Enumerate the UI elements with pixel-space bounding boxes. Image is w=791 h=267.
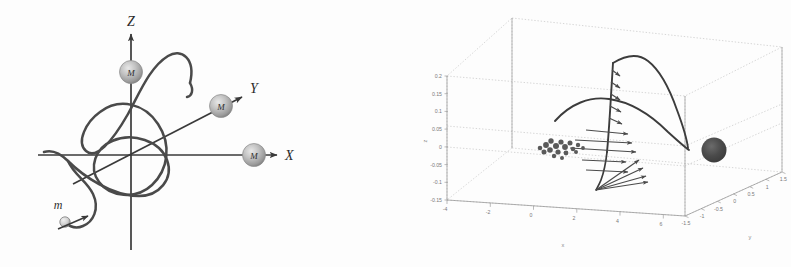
z-tick-label-1: 0.15 (432, 91, 442, 97)
vector-arrow (586, 130, 628, 134)
schematic-svg: M M M m X Y Z (0, 0, 400, 267)
attractor-sphere (702, 138, 727, 163)
y-axis-group: -1.5 -1 -0.5 0 0.5 1 1.5 y (682, 172, 788, 240)
box-grid-midline-b (447, 147, 685, 166)
x-axis-name: x (562, 242, 565, 248)
mass-on-x-axis-label: M (249, 151, 258, 161)
plot-box-wireframe (447, 18, 782, 216)
mass-on-y-axis-label: M (216, 102, 225, 112)
vector-arrow (570, 148, 636, 152)
x-tick-label-5: 6 (660, 221, 663, 227)
mass-on-x-axis: M (243, 144, 266, 167)
vector-arrow (575, 140, 632, 143)
z-tick-label-7: -0.15 (430, 197, 442, 203)
test-particle-label: m (54, 198, 63, 212)
z-tick-label-4: 0 (439, 144, 442, 150)
particle-cluster (538, 138, 585, 160)
vector-arrow (610, 106, 621, 112)
y-tick-label-6: 1.5 (780, 176, 787, 182)
x-axis-group: -4 -2 0 2 4 6 x (443, 200, 685, 248)
orbit-trajectory-curve (44, 53, 192, 227)
x-tick-label-0: -4 (443, 206, 448, 212)
y-axis-label: Y (250, 81, 260, 96)
x-tick-label-1: -2 (486, 209, 491, 215)
test-particle: m (54, 198, 88, 229)
box-grid-midline-a-right (685, 104, 782, 146)
y-tick-label-3: 0 (733, 198, 736, 204)
y-tick-label-1: -1 (700, 213, 705, 219)
x-tick-label-3: 2 (573, 215, 576, 221)
mass-on-z-axis: M (120, 61, 143, 84)
box-grid-midline-b-right (685, 123, 782, 166)
vector-arrow (609, 118, 622, 124)
x-tick-label-2: 0 (530, 212, 533, 218)
y-tick-label-2: -0.5 (714, 206, 723, 212)
figure-root: M M M m X Y Z (0, 0, 791, 267)
plot3d-svg: 0.2 0.15 0.1 0.05 0 -0.05 -0.1 (400, 0, 791, 267)
y-tick-label-0: -1.5 (682, 220, 691, 226)
z-tick-label-5: -0.05 (430, 162, 442, 168)
plot-box-corner-posts (512, 18, 782, 216)
mass-on-y-axis: M (210, 95, 233, 118)
y-tick-label-4: 0.5 (747, 191, 754, 197)
z-axis-label: Z (127, 14, 135, 29)
right-plot-panel: 0.2 0.15 0.1 0.05 0 -0.05 -0.1 (400, 0, 791, 267)
mass-on-z-axis-label: M (126, 68, 135, 78)
trajectory-arc-upper (607, 56, 688, 152)
vector-arrow (586, 170, 628, 172)
z-axis-group: 0.2 0.15 0.1 0.05 0 -0.05 -0.1 (422, 73, 448, 203)
z-tick-label-6: -0.1 (433, 179, 442, 185)
y-axis-name: y (749, 234, 752, 240)
x-axis-label: X (284, 148, 294, 163)
z-axis-name: z (422, 139, 428, 142)
x-tick-label-4: 4 (616, 218, 619, 224)
z-tick-label-0: 0.2 (435, 73, 442, 79)
left-schematic-panel: M M M m X Y Z (0, 0, 400, 267)
z-tick-label-3: 0.05 (432, 126, 442, 132)
z-tick-label-2: 0.1 (435, 108, 442, 114)
box-grid-midline-a (447, 126, 685, 146)
y-tick-label-5: 1 (766, 184, 769, 190)
x-axis-spine (447, 200, 685, 216)
